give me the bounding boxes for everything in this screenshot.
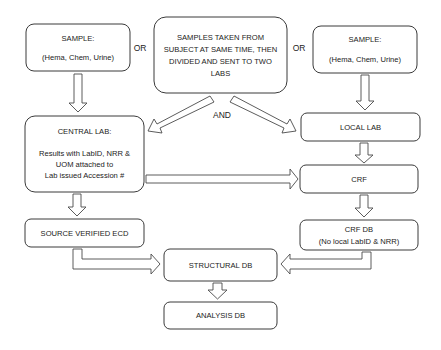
node-analysis-db: ANALYSIS DB xyxy=(164,302,277,329)
arrow-sample-right-to-local-lab xyxy=(356,75,374,110)
lab-data-flow-diagram: SAMPLE: (Hema, Chem, Urine) SAMPLES TAKE… xyxy=(0,0,441,350)
node-sample-left-title: SAMPLE: xyxy=(62,34,95,43)
node-sample-left: SAMPLE: (Hema, Chem, Urine) xyxy=(26,24,130,71)
node-samples-split-line-3: DIVIDED AND SENT TO TWO xyxy=(169,57,272,66)
node-sample-right: SAMPLE: (Hema, Chem, Urine) xyxy=(313,26,417,73)
node-crf-db-note: (No local LabID & NRR) xyxy=(319,237,400,246)
node-structural-db: STRUCTURAL DB xyxy=(164,249,277,281)
connector-or-left: OR xyxy=(134,43,147,53)
node-central-lab-title: CENTRAL LAB: xyxy=(58,127,112,136)
node-crf-db-title: CRF DB xyxy=(345,225,373,234)
node-local-lab-label: LOCAL LAB xyxy=(340,123,381,132)
node-source-verified-ecd-label: SOURCE VERIFIED ECD xyxy=(41,229,129,238)
node-central-lab-line-4: Lab issued Accession # xyxy=(45,171,125,180)
node-crf: CRF xyxy=(300,165,418,193)
arrow-local-lab-to-crf xyxy=(355,143,373,163)
node-sample-right-title: SAMPLE: xyxy=(349,35,382,44)
node-samples-split-line-2: SUBJECT AT SAME TIME, THEN xyxy=(164,45,278,54)
arrow-split-to-central-lab xyxy=(148,96,214,133)
arrow-ecd-to-structural-db xyxy=(73,249,160,274)
node-central-lab-line-2: Results with LabID, NRR & xyxy=(39,149,130,158)
arrow-central-lab-to-ecd xyxy=(68,194,86,216)
arrow-crf-to-crf-db xyxy=(355,195,373,217)
node-crf-label: CRF xyxy=(351,175,367,184)
node-sample-left-detail: (Hema, Chem, Urine) xyxy=(42,53,115,62)
arrow-structural-to-analysis-db xyxy=(208,283,227,299)
node-sample-right-detail: (Hema, Chem, Urine) xyxy=(329,55,402,64)
connector-or-right: OR xyxy=(293,43,306,53)
node-samples-split-line-4: LABS xyxy=(211,69,230,78)
arrow-sample-left-to-central-lab xyxy=(69,74,87,112)
node-central-lab-line-3: UOM attached to xyxy=(56,160,113,169)
node-samples-split: SAMPLES TAKEN FROM SUBJECT AT SAME TIME,… xyxy=(154,17,287,93)
node-central-lab: CENTRAL LAB: Results with LabID, NRR & U… xyxy=(25,116,144,192)
connector-and: AND xyxy=(213,110,231,120)
node-crf-db: CRF DB (No local LabID & NRR) xyxy=(300,220,418,250)
arrow-crf-db-to-structural-db xyxy=(281,252,371,274)
node-source-verified-ecd: SOURCE VERIFIED ECD xyxy=(25,219,144,247)
node-analysis-db-label: ANALYSIS DB xyxy=(196,311,245,320)
node-local-lab: LOCAL LAB xyxy=(301,113,420,141)
node-samples-split-line-1: SAMPLES TAKEN FROM xyxy=(177,33,264,42)
node-structural-db-label: STRUCTURAL DB xyxy=(189,261,252,270)
arrow-split-to-local-lab xyxy=(230,96,296,133)
arrow-central-lab-to-crf xyxy=(146,169,298,189)
